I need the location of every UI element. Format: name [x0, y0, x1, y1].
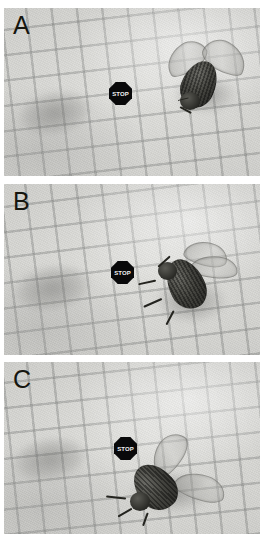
figure-container: A STOP B STOP — [0, 0, 261, 538]
fly-leg-2-b — [138, 280, 156, 285]
panel-label-c: C — [13, 367, 32, 392]
fly-a — [156, 30, 260, 134]
stop-sign-label-b: STOP — [114, 270, 131, 276]
stop-sign-marker-a: STOP — [109, 82, 132, 105]
panel-b: B STOP — [4, 184, 260, 355]
fly-c — [112, 440, 238, 534]
fly-leg-2-c — [118, 508, 133, 517]
fly-leg-3-c — [142, 513, 148, 527]
panel-a: A STOP — [4, 8, 260, 176]
panel-c: C STOP — [4, 362, 260, 534]
stop-sign-label-a: STOP — [112, 91, 129, 97]
panel-label-b: B — [13, 189, 30, 214]
panel-label-a: A — [13, 13, 30, 38]
fly-head-c — [130, 492, 150, 511]
stop-sign-marker-b: STOP — [111, 261, 134, 284]
fly-b — [140, 236, 252, 346]
